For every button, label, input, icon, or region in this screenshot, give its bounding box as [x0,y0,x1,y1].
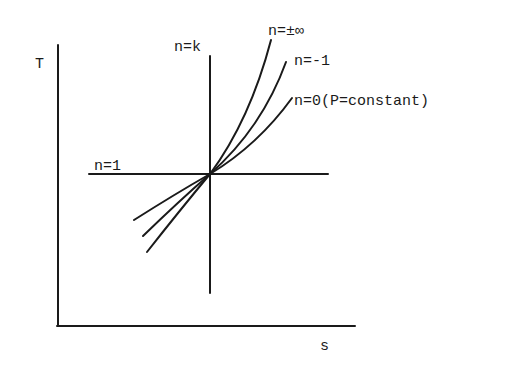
label-n-0: n=0(P=constant) [294,93,429,110]
label-n-minus-1: n=-1 [294,53,330,70]
x-axis-label: s [320,338,329,355]
y-axis-label: T [35,56,44,73]
label-n-k: n=k [174,39,201,56]
ts-diagram: T s n=k n=1 n=±∞ n=-1 n=0(P=constant) [0,0,507,365]
label-n-infinity: n=±∞ [268,23,304,40]
curve-n-minus-1 [143,62,286,236]
curve-n-0 [134,98,292,220]
label-n-1: n=1 [94,158,121,175]
